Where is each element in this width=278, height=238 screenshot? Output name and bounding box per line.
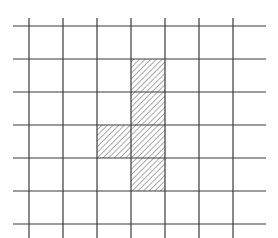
grid-diagram xyxy=(0,0,278,238)
grid-svg xyxy=(0,0,278,238)
hatched-cell xyxy=(97,125,131,158)
hatched-cell xyxy=(131,158,165,191)
hatched-cell xyxy=(131,92,165,125)
hatched-cell xyxy=(131,59,165,92)
hatched-cell xyxy=(131,125,165,158)
